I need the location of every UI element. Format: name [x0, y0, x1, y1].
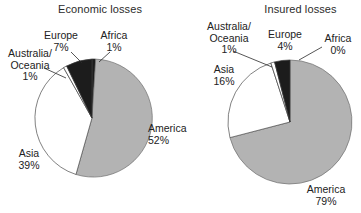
label-economic-america: America 52%: [148, 123, 203, 146]
label-insured-africa-name: Africa: [325, 32, 352, 44]
label-insured-asia: Asia 16%: [202, 64, 246, 87]
chart-title-insured-losses: Insured losses: [243, 3, 358, 15]
label-economic-africa: Africa 1%: [90, 30, 138, 53]
label-economic-australia-name-line1: Australia/: [8, 47, 52, 59]
pie-insured-losses: [228, 60, 352, 184]
chart-title-economic-losses: Economic losses: [40, 3, 160, 15]
label-economic-asia: Asia 39%: [6, 148, 52, 171]
pie-chart-figure: Economic losses Insured losses Europe 7%…: [0, 0, 361, 213]
label-insured-america-name: America: [307, 183, 346, 195]
label-economic-asia-pct: 39%: [6, 160, 52, 172]
label-insured-australia-oceania: Australia/ Oceania 1%: [196, 21, 262, 56]
label-economic-america-name: America: [148, 122, 187, 134]
label-insured-africa: Africa 0%: [316, 33, 360, 56]
leader-economic-europe: [71, 52, 82, 63]
label-insured-america-pct: 79%: [297, 196, 355, 208]
label-economic-europe-name: Europe: [44, 29, 78, 41]
label-economic-america-pct: 52%: [148, 135, 203, 147]
label-insured-africa-pct: 0%: [316, 45, 360, 57]
label-insured-europe: Europe 4%: [259, 29, 311, 52]
label-insured-asia-name: Asia: [214, 63, 234, 75]
label-insured-australia-name-line1: Australia/: [207, 20, 251, 32]
label-economic-africa-pct: 1%: [90, 42, 138, 54]
label-economic-africa-name: Africa: [101, 29, 128, 41]
label-insured-australia-pct: 1%: [196, 44, 262, 56]
label-insured-europe-pct: 4%: [259, 41, 311, 53]
label-economic-asia-name: Asia: [19, 147, 39, 159]
label-insured-europe-name: Europe: [268, 28, 302, 40]
label-economic-australia-oceania: Australia/ Oceania 1%: [0, 48, 62, 83]
label-economic-australia-pct: 1%: [0, 71, 62, 83]
label-insured-america: America 79%: [297, 184, 355, 207]
label-insured-asia-pct: 16%: [202, 76, 246, 88]
